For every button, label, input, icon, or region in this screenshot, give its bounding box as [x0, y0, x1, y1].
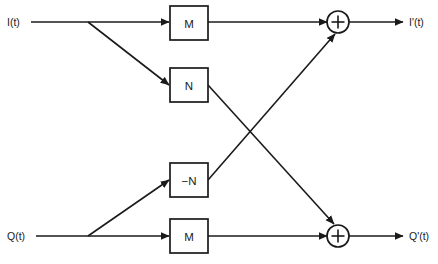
block-gain-n[interactable]: N	[170, 68, 208, 102]
block-gain-n-label: N	[185, 80, 193, 92]
adder-q-output[interactable]	[327, 225, 349, 247]
signal-flow-diagram: M N −N M I(t) Q(t)	[0, 0, 438, 264]
block-gain-m-top-label: M	[184, 18, 194, 30]
output-label-i-prime: I'(t)	[409, 16, 424, 28]
output-label-q-prime: Q'(t)	[409, 230, 429, 242]
block-gain-negative-n-label: −N	[181, 175, 196, 187]
block-gain-m-top[interactable]: M	[170, 6, 208, 40]
block-gain-m-bottom-label: M	[184, 231, 194, 243]
wire-n-to-adder-q	[208, 85, 334, 224]
wire-i-to-n	[88, 22, 169, 85]
input-label-i: I(t)	[7, 16, 20, 28]
input-label-q: Q(t)	[7, 230, 25, 242]
wire-q-to-neg-n	[88, 180, 169, 236]
block-gain-negative-n[interactable]: −N	[170, 163, 208, 197]
diagram-canvas: M N −N M I(t) Q(t)	[0, 0, 438, 264]
block-gain-m-bottom[interactable]: M	[170, 219, 208, 253]
adder-i-output[interactable]	[327, 11, 349, 33]
